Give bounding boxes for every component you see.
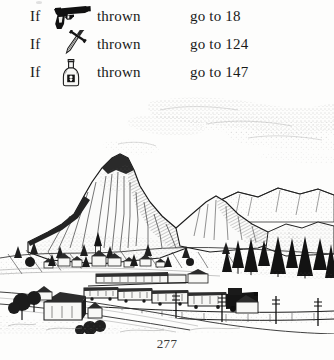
choice-row[interactable]: If: [0, 60, 334, 88]
condition-word: If: [30, 7, 40, 26]
book-page: If: [0, 0, 334, 360]
pistol-icon: [52, 2, 94, 32]
poison-bottle-icon: [52, 58, 94, 88]
choice-row[interactable]: If: [0, 32, 334, 60]
dagger-icon: [52, 30, 94, 60]
page-number: 277: [0, 336, 334, 352]
goto-link[interactable]: go to 147: [190, 63, 248, 82]
action-word: thrown: [97, 35, 141, 54]
goto-link[interactable]: go to 18: [190, 7, 241, 26]
goto-link[interactable]: go to 124: [190, 35, 248, 54]
action-word: thrown: [97, 7, 141, 26]
mountain-valley-railway-illustration: [0, 96, 334, 334]
condition-word: If: [30, 35, 40, 54]
action-word: thrown: [97, 63, 141, 82]
choice-list: If: [0, 0, 334, 95]
choice-row[interactable]: If: [0, 4, 334, 32]
condition-word: If: [30, 63, 40, 82]
